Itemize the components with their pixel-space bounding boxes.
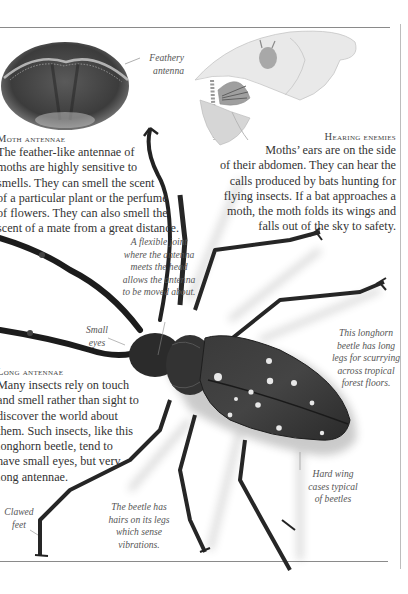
body-line: of their abdomen. They can hear the (210, 158, 396, 173)
body-line: scent of a mate from a great distance. (0, 221, 212, 236)
body-line: The feather-like antennae of (0, 145, 212, 160)
caption-line: to be moved about. (112, 286, 206, 299)
section-long-antennae: Long antennae Many insects rely on touch… (0, 365, 162, 485)
moth-head-photo (1, 42, 140, 130)
body-line: flying insects. If a bat approaches a (210, 189, 396, 204)
caption-line: Clawed (0, 506, 38, 519)
body-line: longhorn beetle, tend to (0, 439, 162, 454)
caption-line: legs for scurrying (326, 352, 406, 365)
section-body: Many insects rely on touch and smell rat… (0, 378, 162, 485)
body-line: Many insects rely on touch (0, 378, 162, 393)
caption-line: Feathery (136, 52, 184, 65)
section-moth-antennae: Moth antennae The feather-like antennae … (0, 132, 212, 237)
caption-line: of beetles (293, 493, 373, 506)
caption-line: meets the head (112, 261, 206, 274)
caption-line: forest floors. (326, 377, 406, 390)
caption-line: Hard wing (293, 468, 373, 481)
body-line: falls out of the sky to safety. (210, 219, 396, 234)
body-line: have small eyes, but very (0, 454, 162, 469)
bat-moth-drawing (195, 31, 356, 145)
caption-feathery-antenna: Feathery antenna (136, 52, 184, 77)
caption-leg-hairs: The beetle has hairs on its legs which s… (105, 501, 173, 551)
caption-line: beetle has long (326, 340, 406, 353)
body-line: long antennae. (0, 470, 162, 485)
body-line: Moths’ ears are on the side (210, 143, 396, 158)
caption-line: which sense (105, 526, 173, 539)
section-heading: Long antennae (0, 365, 162, 378)
body-line: them. Such insects, like this (0, 424, 162, 439)
body-line: of a particular plant or the perfume (0, 191, 212, 206)
caption-line: where the antenna (112, 249, 206, 262)
section-heading: Moth antennae (0, 132, 212, 145)
caption-line: Small (82, 324, 112, 337)
caption-line: vibrations. (105, 539, 173, 552)
caption-line: across tropical (326, 365, 406, 378)
caption-line: This longhorn (326, 327, 406, 340)
body-line: and smell rather than sight to (0, 393, 162, 408)
caption-line: hairs on its legs (105, 514, 173, 527)
body-line: smells. They can smell the scent (0, 176, 212, 191)
body-line: moth, the moth folds its wings and (210, 204, 396, 219)
body-line: of flowers. They can also smell the (0, 206, 212, 221)
caption-hard-wing-cases: Hard wing cases typical of beetles (293, 468, 373, 506)
caption-flexible-joint: A flexible joint where the antenna meets… (112, 236, 206, 299)
caption-line: The beetle has (105, 501, 173, 514)
caption-line: feet (0, 519, 38, 532)
caption-line: A flexible joint (112, 236, 206, 249)
section-body: Moths’ ears are on the side of their abd… (210, 143, 396, 235)
body-line: discover the world about (0, 409, 162, 424)
section-heading: Hearing enemies (210, 130, 396, 143)
caption-line: allows the antenna (112, 274, 206, 287)
body-line: moths are highly sensitive to (0, 160, 212, 175)
caption-longhorn-legs: This longhorn beetle has long legs for s… (326, 327, 406, 390)
body-line: calls produced by bats hunting for (210, 174, 396, 189)
caption-line: cases typical (293, 481, 373, 494)
caption-line: antenna (136, 65, 184, 78)
section-body: The feather-like antennae of moths are h… (0, 145, 212, 237)
caption-clawed-feet: Clawed feet (0, 506, 38, 531)
caption-small-eyes: Small eyes (82, 324, 112, 349)
caption-line: eyes (82, 337, 112, 350)
section-hearing-enemies: Hearing enemies Moths’ ears are on the s… (210, 130, 396, 235)
